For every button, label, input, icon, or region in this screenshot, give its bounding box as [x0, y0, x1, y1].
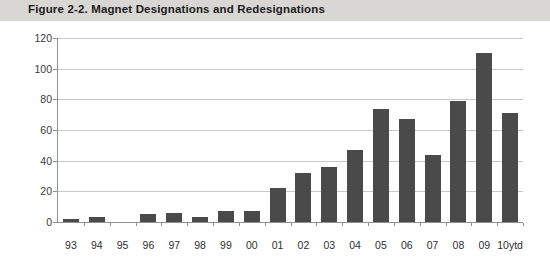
- bar-slot: [136, 38, 162, 222]
- x-tick-mark: [136, 223, 137, 226]
- y-tick-mark: [53, 191, 57, 192]
- y-tick-label: 60: [28, 125, 52, 136]
- chart-plot-area: 120100806040200 939495969798990001020304…: [0, 21, 550, 263]
- y-axis-labels: 120100806040200: [24, 38, 52, 222]
- bar: [373, 109, 389, 222]
- x-tick-label: 98: [187, 240, 213, 251]
- bar-slot: [187, 38, 213, 222]
- x-tick-label: 02: [291, 240, 317, 251]
- figure-container: Figure 2-2. Magnet Designations and Rede…: [0, 0, 550, 263]
- x-tick-label: 04: [342, 240, 368, 251]
- x-tick-mark: [213, 223, 214, 226]
- bar: [450, 101, 466, 222]
- bar-slot: [239, 38, 265, 222]
- x-tick-label: 96: [136, 240, 162, 251]
- x-tick-mark: [420, 223, 421, 226]
- x-tick-label: 10ytd: [497, 240, 523, 251]
- y-tick-label: 20: [28, 186, 52, 197]
- bar-slot: [58, 38, 84, 222]
- x-tick-label: 97: [161, 240, 187, 251]
- bar: [295, 173, 311, 222]
- bar-slot: [316, 38, 342, 222]
- x-tick-label: 94: [84, 240, 110, 251]
- bar-slot: [84, 38, 110, 222]
- bar-slot: [446, 38, 472, 222]
- bar: [399, 119, 415, 222]
- y-tick-label: 100: [28, 64, 52, 75]
- bar: [166, 213, 182, 222]
- x-tick-label: 06: [394, 240, 420, 251]
- x-tick-mark: [239, 223, 240, 226]
- y-tick-label: 80: [28, 94, 52, 105]
- figure-title: Figure 2-2. Magnet Designations and Rede…: [28, 3, 325, 15]
- bar-slot: [161, 38, 187, 222]
- x-tick-label: 08: [446, 240, 472, 251]
- bar: [140, 214, 156, 222]
- x-tick-label: 07: [420, 240, 446, 251]
- bar-slot: [213, 38, 239, 222]
- x-tick-label: 99: [213, 240, 239, 251]
- bar-series: [58, 38, 523, 222]
- y-tick-mark: [53, 99, 57, 100]
- x-tick-mark: [446, 223, 447, 226]
- bar-slot: [110, 38, 136, 222]
- x-tick-label: 03: [316, 240, 342, 251]
- y-tick-mark: [53, 161, 57, 162]
- x-tick-label: 00: [239, 240, 265, 251]
- y-tick-mark: [53, 38, 57, 39]
- bar: [321, 167, 337, 222]
- bar: [476, 53, 492, 222]
- y-tick-label: 0: [28, 217, 52, 228]
- x-tick-label: 05: [368, 240, 394, 251]
- x-tick-mark: [316, 223, 317, 226]
- x-tick-mark: [394, 223, 395, 226]
- bar-slot: [420, 38, 446, 222]
- x-tick-mark: [110, 223, 111, 226]
- bar-slot: [471, 38, 497, 222]
- x-tick-mark: [523, 223, 524, 226]
- x-tick-mark: [161, 223, 162, 226]
- x-tick-mark: [84, 223, 85, 226]
- x-tick-label: 09: [471, 240, 497, 251]
- bar-slot: [291, 38, 317, 222]
- y-tick-mark: [53, 69, 57, 70]
- x-tick-mark: [187, 223, 188, 226]
- figure-title-band: Figure 2-2. Magnet Designations and Rede…: [0, 0, 550, 21]
- bar: [270, 188, 286, 222]
- x-tick-label: 93: [58, 240, 84, 251]
- x-tick-label: 95: [110, 240, 136, 251]
- bar-slot: [394, 38, 420, 222]
- bar-slot: [265, 38, 291, 222]
- bar-slot: [342, 38, 368, 222]
- bar: [244, 211, 260, 222]
- y-tick-label: 120: [28, 33, 52, 44]
- x-tick-mark: [342, 223, 343, 226]
- x-axis-labels: 939495969798990001020304050607080910ytd: [58, 230, 523, 250]
- x-tick-mark: [291, 223, 292, 226]
- bar: [502, 113, 518, 222]
- bar: [425, 155, 441, 222]
- bar-slot: [368, 38, 394, 222]
- bar-slot: [497, 38, 523, 222]
- y-tick-mark: [53, 130, 57, 131]
- x-tick-mark: [471, 223, 472, 226]
- y-tick-label: 40: [28, 156, 52, 167]
- x-tick-mark: [497, 223, 498, 226]
- x-tick-mark: [265, 223, 266, 226]
- x-tick-mark: [368, 223, 369, 226]
- x-tick-label: 01: [265, 240, 291, 251]
- bar: [218, 211, 234, 222]
- bar: [347, 150, 363, 222]
